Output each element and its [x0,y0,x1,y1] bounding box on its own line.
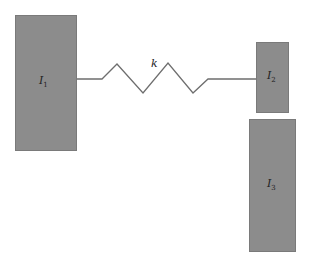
spring-connector [0,0,311,265]
spring-constant-label: k [151,57,158,70]
spring-icon [77,63,256,93]
